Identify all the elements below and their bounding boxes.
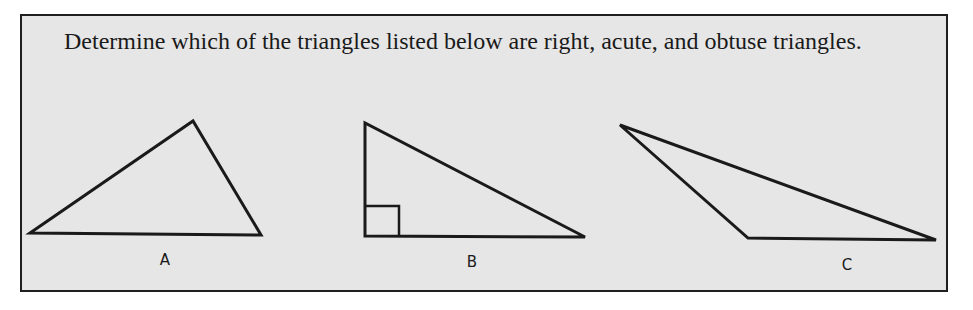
right-angle-marker [365,206,399,236]
triangles-figure [0,0,973,310]
triangle-a [30,121,261,235]
triangle-c-label: C [842,256,852,274]
triangle-b-label: B [467,253,477,271]
triangle-a-label: A [160,251,170,269]
triangle-c [620,125,936,240]
